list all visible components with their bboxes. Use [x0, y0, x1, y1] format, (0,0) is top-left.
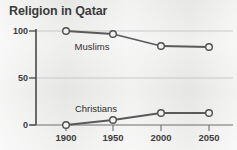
- data-point-christians-1900: [63, 122, 70, 129]
- series-line-muslims: [66, 31, 209, 47]
- gridlines: [36, 31, 233, 78]
- data-point-muslims-1950: [110, 31, 117, 38]
- data-point-christians-1950: [110, 117, 117, 124]
- data-point-christians-2000: [158, 110, 165, 117]
- chart-figure: Religion in Qatar 100 50 0 1900 1950 200…: [0, 0, 237, 150]
- data-point-muslims-1900: [63, 28, 70, 35]
- chart-plot-area: [0, 0, 237, 150]
- data-point-muslims-2050: [206, 44, 213, 51]
- data-point-christians-2050: [206, 110, 213, 117]
- data-point-muslims-2000: [158, 43, 165, 50]
- axes: [29, 29, 233, 131]
- series-line-christians: [66, 113, 209, 125]
